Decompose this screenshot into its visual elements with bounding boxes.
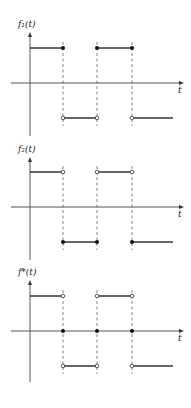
axis-point-icon (61, 329, 65, 333)
closed-endpoint-icon (95, 240, 99, 244)
closed-endpoint-icon (61, 240, 65, 244)
x-axis-label: t (178, 85, 182, 95)
open-endpoint-icon (95, 364, 99, 368)
open-endpoint-icon (61, 294, 65, 298)
y-axis-label: f₁(t) (17, 19, 36, 29)
open-endpoint-icon (130, 170, 134, 174)
x-axis-label: t (178, 209, 182, 219)
y-axis-label: f*(t) (17, 267, 37, 277)
open-endpoint-icon (130, 364, 134, 368)
y-axis-arrow-icon (28, 32, 32, 37)
open-endpoint-icon (130, 294, 134, 298)
axis-point-icon (130, 329, 134, 333)
open-endpoint-icon (95, 116, 99, 120)
closed-endpoint-icon (130, 240, 134, 244)
waveform-diagram: f₁(t)tf₂(t)tf*(t)t (0, 0, 191, 408)
panel-f2: f₂(t)t (11, 144, 184, 260)
closed-endpoint-icon (130, 46, 134, 50)
y-axis-arrow-icon (28, 157, 32, 162)
y-axis-arrow-icon (28, 280, 32, 285)
axis-point-icon (95, 329, 99, 333)
open-endpoint-icon (130, 116, 134, 120)
open-endpoint-icon (61, 170, 65, 174)
open-endpoint-icon (95, 294, 99, 298)
x-axis-label: t (178, 333, 182, 343)
closed-endpoint-icon (95, 46, 99, 50)
open-endpoint-icon (95, 170, 99, 174)
panel-fstar: f*(t)t (11, 267, 184, 382)
closed-endpoint-icon (61, 46, 65, 50)
panel-f1: f₁(t)t (11, 19, 184, 136)
open-endpoint-icon (61, 364, 65, 368)
y-axis-label: f₂(t) (17, 144, 36, 154)
open-endpoint-icon (61, 116, 65, 120)
